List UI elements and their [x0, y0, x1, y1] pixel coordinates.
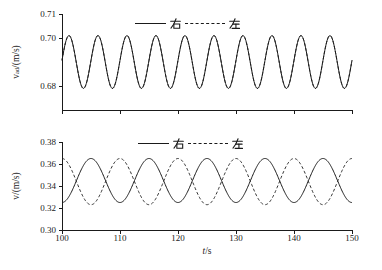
top-y-axis-label: vad/(m/s): [9, 12, 23, 112]
bottom-y-axis-label: v/(m/s): [9, 136, 23, 236]
legend-dashed-line-sample: [188, 143, 228, 144]
y-tick-label: 0.38: [30, 137, 56, 147]
x-tick-label: 140: [279, 233, 309, 243]
x-tick-label: 150: [337, 233, 367, 243]
y-tick-label: 0.34: [30, 181, 56, 191]
x-axis-label: t/s: [187, 246, 227, 256]
y-tick-label: 0.32: [30, 203, 56, 213]
x-tick-label: 120: [163, 233, 193, 243]
y-tick-label: 0.71: [30, 9, 56, 19]
bottom-y-axis-label-base: v: [11, 195, 21, 200]
series-line-dashed: [62, 159, 352, 205]
legend-dashed-line-sample: [185, 23, 225, 24]
top-y-axis-label-base: v: [11, 74, 21, 79]
top-y-axis-label-sub: ad: [13, 68, 20, 74]
legend-solid-line-sample: [138, 143, 169, 144]
x-tick-label: 100: [47, 233, 77, 243]
x-tick-label: 110: [105, 233, 135, 243]
top-y-axis-label-units: /(m/s): [11, 45, 21, 68]
axis-spines: [62, 142, 352, 230]
bottom-legend: [138, 137, 247, 150]
legend-label-left: [232, 138, 243, 149]
bottom-y-axis-label-units: /(m/s): [11, 172, 21, 195]
x-tick-label: 130: [221, 233, 251, 243]
figure-container: vad/(m/s) v/(m/s) 0.71 0.70 0.68 0.38 0.…: [0, 0, 382, 270]
legend-solid-line-sample: [135, 23, 166, 24]
legend-label-left: [229, 18, 240, 29]
y-tick-label: 0.68: [30, 81, 56, 91]
top-legend: [135, 17, 244, 30]
y-tick-label: 0.70: [30, 33, 56, 43]
legend-label-right: [173, 138, 184, 149]
legend-label-right: [170, 18, 181, 29]
plots-canvas: [0, 0, 382, 270]
y-tick-label: 0.36: [30, 159, 56, 169]
x-axis-label-units: /s: [205, 246, 211, 256]
series-line-solid: [62, 36, 352, 89]
